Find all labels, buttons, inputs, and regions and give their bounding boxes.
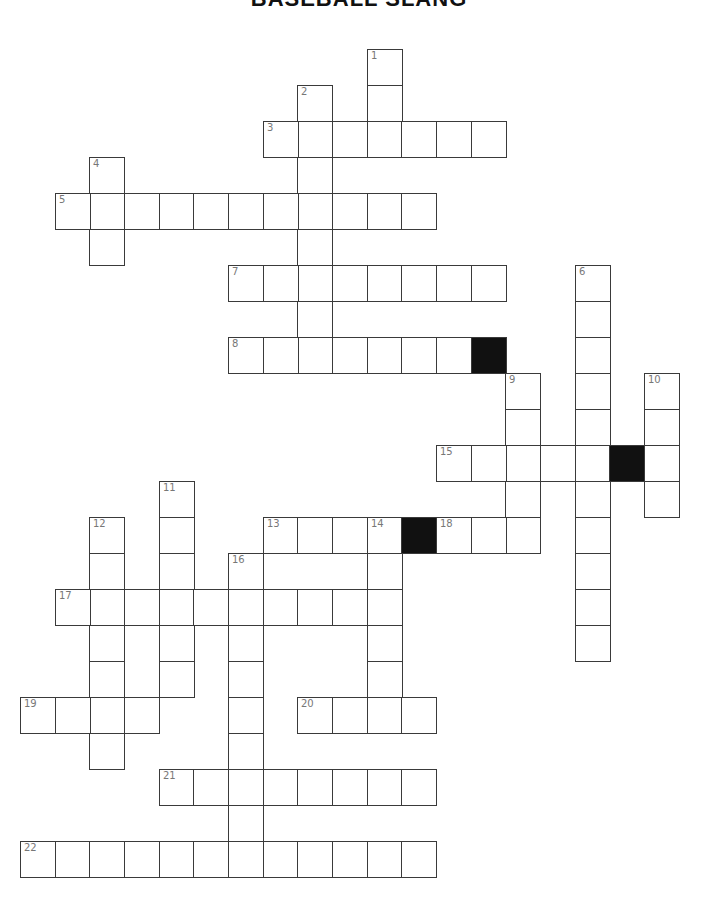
grid-cell[interactable] [159, 517, 195, 554]
grid-cell[interactable] [228, 805, 264, 842]
grid-cell[interactable] [401, 769, 437, 806]
grid-cell[interactable] [367, 193, 403, 230]
grid-cell[interactable] [471, 445, 507, 482]
grid-cell[interactable]: 6 [575, 265, 611, 302]
grid-cell[interactable] [193, 769, 229, 806]
grid-cell[interactable] [367, 85, 403, 122]
grid-cell[interactable] [575, 517, 611, 554]
grid-cell[interactable] [644, 481, 680, 518]
grid-cell[interactable] [575, 625, 611, 662]
grid-cell[interactable] [332, 841, 368, 878]
grid-cell[interactable] [367, 625, 403, 662]
grid-cell[interactable] [297, 769, 333, 806]
grid-cell[interactable] [471, 265, 507, 302]
grid-cell[interactable] [228, 697, 264, 734]
grid-cell[interactable] [332, 517, 368, 554]
grid-cell[interactable] [471, 121, 507, 158]
grid-cell[interactable] [367, 661, 403, 698]
grid-cell[interactable] [297, 301, 333, 338]
grid-cell[interactable] [332, 697, 368, 734]
grid-cell[interactable]: 14 [367, 517, 403, 554]
grid-cell[interactable] [228, 193, 264, 230]
grid-cell[interactable] [263, 589, 299, 626]
grid-cell[interactable] [575, 445, 611, 482]
grid-cell[interactable] [297, 265, 333, 302]
grid-cell[interactable]: 16 [228, 553, 264, 590]
grid-cell[interactable] [228, 841, 264, 878]
grid-cell[interactable] [367, 589, 403, 626]
grid-cell[interactable] [575, 373, 611, 410]
grid-cell[interactable] [471, 517, 507, 554]
grid-cell[interactable] [401, 265, 437, 302]
grid-cell[interactable] [297, 193, 333, 230]
grid-cell[interactable] [367, 265, 403, 302]
grid-cell[interactable] [263, 265, 299, 302]
grid-cell[interactable] [124, 589, 160, 626]
grid-cell[interactable] [401, 121, 437, 158]
grid-cell[interactable]: 20 [297, 697, 333, 734]
grid-cell[interactable]: 9 [505, 373, 541, 410]
grid-cell[interactable]: 2 [297, 85, 333, 122]
grid-cell[interactable] [367, 553, 403, 590]
grid-cell[interactable]: 4 [89, 157, 125, 194]
grid-cell[interactable] [297, 589, 333, 626]
grid-cell[interactable] [89, 229, 125, 266]
grid-cell[interactable] [228, 661, 264, 698]
grid-cell[interactable] [159, 625, 195, 662]
grid-cell[interactable] [297, 229, 333, 266]
grid-cell[interactable] [124, 193, 160, 230]
grid-cell[interactable] [263, 769, 299, 806]
grid-cell[interactable]: 12 [89, 517, 125, 554]
grid-cell[interactable] [89, 553, 125, 590]
grid-cell[interactable] [644, 445, 680, 482]
grid-cell[interactable] [297, 121, 333, 158]
grid-cell[interactable] [575, 553, 611, 590]
grid-cell[interactable] [159, 661, 195, 698]
grid-cell[interactable] [89, 193, 125, 230]
grid-cell[interactable]: 18 [436, 517, 472, 554]
grid-cell[interactable] [332, 265, 368, 302]
grid-cell[interactable] [332, 121, 368, 158]
grid-cell[interactable]: 11 [159, 481, 195, 518]
grid-cell[interactable] [263, 841, 299, 878]
grid-cell[interactable] [505, 409, 541, 446]
grid-cell[interactable] [401, 193, 437, 230]
grid-cell[interactable] [401, 697, 437, 734]
grid-cell[interactable] [55, 841, 91, 878]
grid-cell[interactable] [263, 337, 299, 374]
grid-cell[interactable] [89, 841, 125, 878]
grid-cell[interactable] [55, 697, 91, 734]
grid-cell[interactable]: 21 [159, 769, 195, 806]
grid-cell[interactable] [332, 769, 368, 806]
grid-cell[interactable] [124, 697, 160, 734]
grid-cell[interactable] [332, 337, 368, 374]
grid-cell[interactable] [124, 841, 160, 878]
grid-cell[interactable] [263, 193, 299, 230]
grid-cell[interactable]: 15 [436, 445, 472, 482]
grid-cell[interactable] [89, 733, 125, 770]
grid-cell[interactable] [228, 589, 264, 626]
grid-cell[interactable] [228, 769, 264, 806]
grid-cell[interactable] [401, 337, 437, 374]
grid-cell[interactable] [159, 589, 195, 626]
grid-cell[interactable] [644, 409, 680, 446]
grid-cell[interactable] [193, 841, 229, 878]
grid-cell[interactable] [159, 193, 195, 230]
grid-cell[interactable] [540, 445, 576, 482]
grid-cell[interactable] [332, 589, 368, 626]
grid-cell[interactable] [575, 301, 611, 338]
grid-cell[interactable] [436, 265, 472, 302]
grid-cell[interactable] [367, 337, 403, 374]
grid-cell[interactable] [505, 481, 541, 518]
grid-cell[interactable] [367, 841, 403, 878]
grid-cell[interactable]: 10 [644, 373, 680, 410]
grid-cell[interactable] [505, 517, 541, 554]
grid-cell[interactable]: 13 [263, 517, 299, 554]
grid-cell[interactable]: 22 [20, 841, 56, 878]
grid-cell[interactable] [89, 625, 125, 662]
grid-cell[interactable] [401, 841, 437, 878]
grid-cell[interactable] [575, 589, 611, 626]
grid-cell[interactable] [297, 157, 333, 194]
grid-cell[interactable]: 19 [20, 697, 56, 734]
grid-cell[interactable] [193, 193, 229, 230]
